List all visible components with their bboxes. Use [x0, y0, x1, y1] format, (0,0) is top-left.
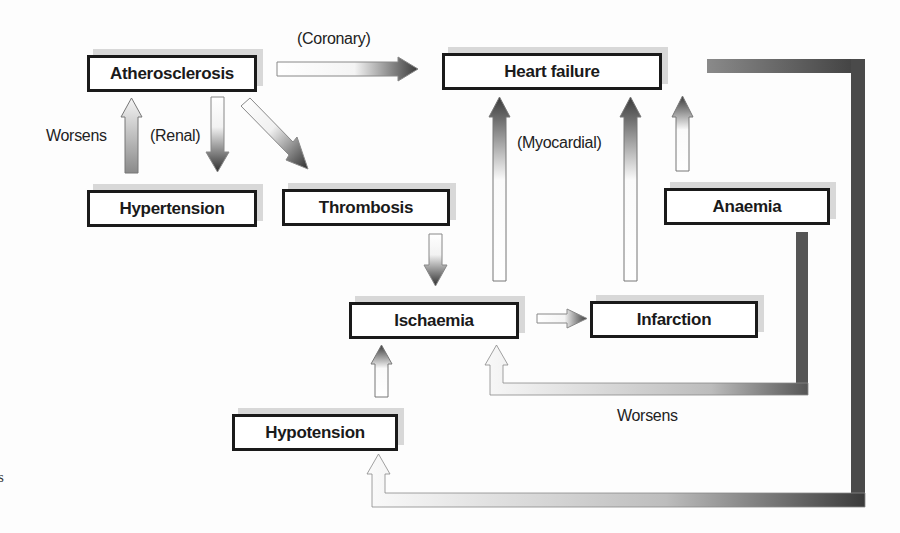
arrow-atherosclerosis-to-thrombosis	[241, 98, 308, 169]
node-atherosclerosis: Atherosclerosis	[87, 55, 257, 92]
arrow-ischaemia-to-infarction	[537, 309, 587, 328]
label-coronary: (Coronary)	[297, 30, 370, 48]
arrow-atherosclerosis-to-heart-failure	[277, 57, 418, 81]
label-myocardial: (Myocardial)	[517, 134, 601, 152]
node-thrombosis: Thrombosis	[282, 189, 450, 226]
cardiovascular-flow-diagram: Atherosclerosis Heart failure Hypertensi…	[0, 0, 900, 533]
node-hypertension: Hypertension	[87, 190, 257, 227]
node-anaemia: Anaemia	[664, 188, 830, 225]
node-hypotension: Hypotension	[232, 414, 398, 451]
label-worsens-bottom: Worsens	[617, 407, 678, 425]
label-worsens-left: Worsens	[46, 127, 107, 145]
arrow-atherosclerosis-to-hypertension	[206, 97, 229, 172]
margin-text-fragment: s	[0, 469, 4, 486]
arrow-thrombosis-to-ischaemia	[424, 234, 447, 286]
node-infarction: Infarction	[590, 301, 758, 338]
node-heart-failure: Heart failure	[442, 53, 662, 90]
connector-heart-failure-to-hypotension	[367, 59, 865, 507]
label-renal: (Renal)	[150, 127, 200, 145]
arrow-hypotension-to-ischaemia	[371, 345, 392, 397]
arrow-anaemia-to-heart-failure	[672, 96, 693, 171]
arrow-hypertension-to-atherosclerosis	[121, 98, 142, 173]
node-ischaemia: Ischaemia	[349, 302, 519, 339]
arrow-ischaemia-to-heart-failure	[489, 97, 510, 281]
arrow-infarction-to-heart-failure	[620, 97, 641, 281]
